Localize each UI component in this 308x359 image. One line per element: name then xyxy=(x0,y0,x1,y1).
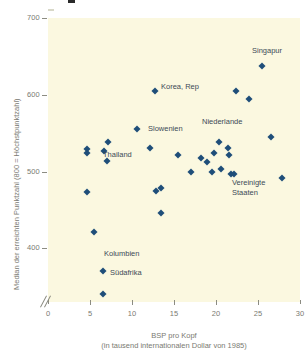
x-axis-tick-mark xyxy=(132,300,133,305)
x-axis-label-sub: (in tausend internationalen Dollar von 1… xyxy=(48,341,300,351)
x-axis-tick-label: 30 xyxy=(288,309,308,318)
plot-area xyxy=(48,18,300,302)
point-label: Slowenien xyxy=(148,124,183,133)
cropped-fragment-icon-2 xyxy=(48,9,54,11)
x-axis-tick-mark xyxy=(300,300,301,304)
y-axis-tick-label: 500 xyxy=(0,167,40,176)
x-axis-tick-label: 25 xyxy=(246,309,270,318)
x-axis-tick-mark xyxy=(90,300,91,305)
y-axis-tick-label: 400 xyxy=(0,243,40,252)
point-label: Vereinigte xyxy=(232,178,265,187)
x-axis-tick-mark xyxy=(216,300,217,305)
y-axis-tick-label: 600 xyxy=(0,90,40,99)
x-axis-tick-label: 5 xyxy=(78,309,102,318)
scatter-chart: Median der erreichten Punktzahl (800 = H… xyxy=(0,0,308,359)
y-axis-tick-mark xyxy=(42,95,47,96)
point-label: Staaten xyxy=(232,188,258,197)
point-label: Korea, Rep xyxy=(161,82,199,91)
point-label: Südafrika xyxy=(110,268,142,277)
point-label: Kolumbien xyxy=(104,249,139,258)
y-axis-tick-label: 700 xyxy=(0,13,40,22)
point-label: Singapur xyxy=(252,46,282,55)
x-axis-label-main: BSP pro Kopf xyxy=(48,331,300,341)
y-axis-tick-mark xyxy=(42,18,47,19)
y-axis-tick-mark xyxy=(42,248,47,249)
point-label: Thailand xyxy=(103,150,132,159)
cropped-fragment-icon xyxy=(68,0,75,3)
y-axis-label-text: Median der erreichten Punktzahl (800 = H… xyxy=(12,98,21,290)
x-axis-tick-mark xyxy=(258,300,259,305)
x-axis-tick-mark xyxy=(174,300,175,305)
x-axis-tick-label: 0 xyxy=(36,309,60,318)
x-axis-tick-label: 15 xyxy=(162,309,186,318)
point-label: Niederlande xyxy=(202,117,242,126)
x-axis-tick-label: 10 xyxy=(120,309,144,318)
y-axis-tick-mark xyxy=(42,172,47,173)
x-axis-tick-label: 20 xyxy=(204,309,228,318)
